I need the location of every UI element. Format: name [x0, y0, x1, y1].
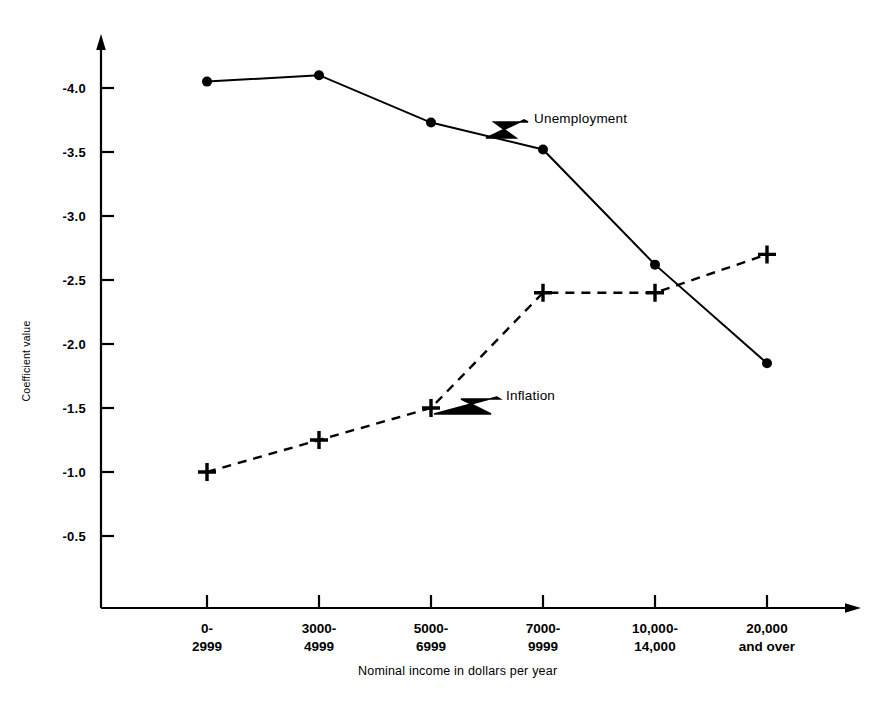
x-tick-label: 20,000 and over — [707, 620, 827, 656]
y-axis-ticks — [101, 88, 114, 536]
y-tick-label: -1.5 — [34, 401, 86, 416]
y-tick-label: -3.5 — [34, 145, 86, 160]
axis-lines — [96, 34, 861, 613]
data-point-marker — [758, 245, 776, 263]
x-axis-ticks — [207, 595, 767, 608]
data-point-marker — [314, 70, 324, 80]
x-tick-label: 0- 2999 — [147, 620, 267, 656]
y-tick-label: -4.0 — [34, 81, 86, 96]
y-tick-label: -0.5 — [34, 529, 86, 544]
data-point-marker — [762, 358, 772, 368]
data-point-marker — [202, 77, 212, 87]
y-tick-label: -3.0 — [34, 209, 86, 224]
data-point-marker — [198, 463, 216, 481]
y-tick-label: -1.0 — [34, 465, 86, 480]
series-unemployment — [202, 70, 772, 368]
unemployment-annotation-arrow — [486, 120, 528, 138]
series-inflation — [198, 245, 776, 481]
data-point-marker — [538, 144, 548, 154]
x-axis-title: Nominal income in dollars per year — [358, 664, 557, 678]
data-point-marker — [426, 118, 436, 128]
x-tick-label: 7000- 9999 — [483, 620, 603, 656]
data-point-marker — [646, 284, 664, 302]
inflation-annotation-arrow — [434, 397, 500, 414]
y-tick-label: -2.0 — [34, 337, 86, 352]
data-point-marker — [650, 260, 660, 270]
x-tick-label: 3000- 4999 — [259, 620, 379, 656]
data-point-marker — [310, 431, 328, 449]
chart-canvas — [0, 0, 879, 704]
y-tick-label: -2.5 — [34, 273, 86, 288]
y-axis-title: Coefficient value — [20, 291, 32, 431]
data-series-layer — [198, 70, 776, 481]
x-tick-label: 10,000- 14,000 — [595, 620, 715, 656]
x-tick-label: 5000- 6999 — [371, 620, 491, 656]
inflation-series-label: Inflation — [506, 388, 555, 403]
chart-figure: -4.0-3.5-3.0-2.5-2.0-1.5-1.0-0.5 0- 2999… — [0, 0, 879, 704]
unemployment-series-label: Unemployment — [534, 111, 627, 126]
